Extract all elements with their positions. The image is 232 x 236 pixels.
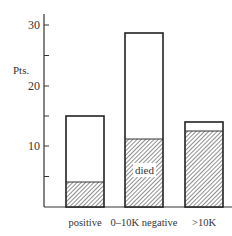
y-tick-label-30: 30: [28, 18, 40, 32]
y-tick-label-10: 10: [28, 139, 40, 153]
bar-positive: [66, 116, 104, 207]
category-label-over-10k: >10K: [192, 217, 216, 228]
y-axis-label: Pts.: [13, 64, 29, 76]
category-label-0-10k-negative: 0–10K negative: [111, 217, 178, 228]
died-annotation: died: [135, 164, 154, 176]
category-label-positive: positive: [68, 217, 102, 228]
bar-chart: 30 20 10 Pts. died positive 0–10K negati…: [0, 0, 232, 236]
bar-0-10k-negative: [125, 33, 163, 207]
y-tick-label-20: 20: [28, 79, 40, 93]
y-ticks: [44, 25, 49, 177]
bar-over-10k: [185, 122, 223, 207]
